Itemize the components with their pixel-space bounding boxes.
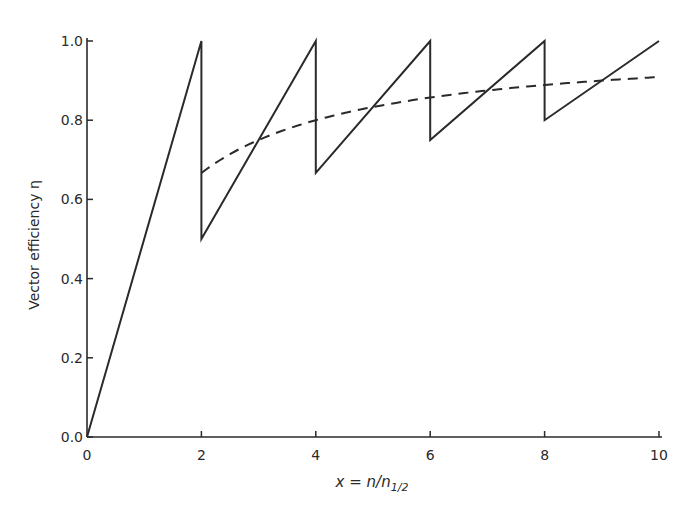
x-tick-label: 2 [197, 447, 206, 463]
x-tick-label: 8 [540, 447, 549, 463]
y-tick-label: 0.4 [61, 271, 83, 287]
y-tick-label: 0.2 [61, 350, 83, 366]
y-ticks: 0.00.20.40.60.81.0 [61, 33, 93, 445]
x-tick-label: 0 [83, 447, 92, 463]
x-tick-label: 6 [426, 447, 435, 463]
chart: 0.00.20.40.60.81.0 0246810 Vector effici… [0, 0, 688, 509]
y-axis-label: Vector efficiency η [26, 180, 42, 310]
y-tick-label: 0.0 [61, 429, 83, 445]
sawtooth-line [87, 41, 659, 437]
x-axis-label-main: x = n/n [335, 473, 391, 491]
y-tick-label: 0.6 [61, 191, 83, 207]
x-tick-label: 10 [650, 447, 668, 463]
x-axis-label: x = n/n1/2 [335, 473, 409, 494]
y-tick-label: 0.8 [61, 112, 83, 128]
x-ticks: 0246810 [83, 431, 668, 463]
plot-series [87, 41, 659, 437]
x-tick-label: 4 [311, 447, 320, 463]
y-tick-label: 1.0 [61, 33, 83, 49]
x-axis-label-subscript: 1/2 [391, 481, 409, 494]
